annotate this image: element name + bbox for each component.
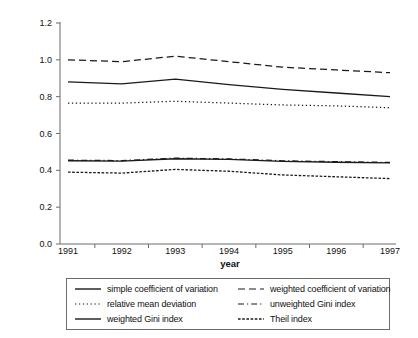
y-tick-label: 0.4 [22,165,52,175]
series-line-relative-mean-deviation [68,101,390,107]
y-tick-label: 0.6 [22,129,52,139]
x-tick-label: 1995 [261,246,305,256]
y-tick-label: 0.2 [22,202,52,212]
legend-label: relative mean deviation [107,299,196,309]
y-tick-label: 1.0 [22,55,52,65]
legend-label: weighted Gini index [107,314,183,324]
legend-swatch-solid [75,314,101,324]
legend-swatch-solid [75,284,101,294]
legend-item-unweighted-gini-index: unweighted Gini index [230,296,391,311]
legend-swatch-dotted [75,299,101,309]
x-tick-label: 1996 [314,246,358,256]
series-line-simple-coefficient-of-variation [68,79,390,97]
x-axis-label: year [60,258,400,269]
legend-label: weighted coefficient of variation [270,284,390,294]
legend-item-weighted-gini-index: weighted Gini index [67,312,230,327]
legend-item-weighted-coefficient-of-variation: weighted coefficient of variation [230,281,391,296]
chart-figure: inequality measure year simple coefficie… [0,0,418,338]
y-tick-label: 0.8 [22,92,52,102]
x-tick-label: 1993 [153,246,197,256]
series-line-theil-index [68,169,390,178]
y-tick-label: 1.2 [22,18,52,28]
legend-label: simple coefficient of variation [107,284,218,294]
legend-label: Theil index [270,314,312,324]
series-line-weighted-gini-index [68,159,390,163]
x-tick-label: 1991 [46,246,90,256]
x-tick-label: 1997 [368,246,412,256]
legend-item-simple-coefficient-of-variation: simple coefficient of variation [67,281,230,296]
legend-item-theil-index: Theil index [230,312,391,327]
x-tick-label: 1992 [100,246,144,256]
legend-grid: simple coefficient of variation weighted… [67,279,389,329]
series-line-weighted-coefficient-of-variation [68,56,390,73]
legend-label: unweighted Gini index [270,299,355,309]
legend: simple coefficient of variation weighted… [66,278,390,330]
legend-item-relative-mean-deviation: relative mean deviation [67,296,230,311]
legend-swatch-dashed [238,284,264,294]
x-tick-label: 1994 [207,246,251,256]
legend-swatch-short-dash [238,314,264,324]
legend-swatch-dash-dot [238,299,264,309]
